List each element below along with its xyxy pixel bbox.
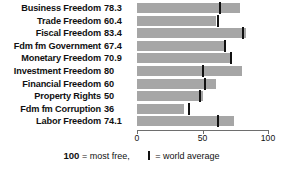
axis-tick-label: 100	[261, 133, 275, 143]
world-average-marker	[202, 65, 204, 77]
world-average-marker-icon	[148, 151, 150, 160]
row-label: Labor Freedom	[0, 115, 101, 127]
row-value: 36	[104, 103, 130, 115]
bar-track	[137, 41, 283, 51]
row-value: 83.4	[104, 27, 130, 39]
row-label: Trade Freedom	[0, 15, 101, 27]
row-value: 60	[104, 78, 130, 90]
bar	[137, 16, 216, 26]
row-label: Fiscal Freedom	[0, 27, 101, 39]
bar-track	[137, 66, 283, 76]
bar	[137, 3, 240, 13]
world-average-marker	[230, 52, 232, 64]
bar	[137, 116, 234, 126]
axis-tick-label: 50	[198, 133, 208, 143]
world-average-marker	[217, 15, 219, 27]
row-value: 80	[104, 65, 130, 77]
legend-world-average-text: = world average	[155, 151, 219, 161]
row-label: Fdm fm Government	[0, 40, 101, 52]
chart-row: Labor Freedom74.1	[0, 116, 283, 129]
bar-track	[137, 28, 283, 38]
world-average-marker	[224, 40, 226, 52]
row-value: 67.4	[104, 40, 130, 52]
freedom-index-bar-chart: Business Freedom78.3Trade Freedom60.4Fis…	[0, 0, 283, 172]
bar-track	[137, 116, 283, 126]
world-average-marker	[199, 90, 201, 102]
row-label: Financial Freedom	[0, 78, 101, 90]
axis-tick-label: 0	[135, 133, 140, 143]
world-average-marker	[242, 27, 244, 39]
bar-track	[137, 3, 283, 13]
bar-track	[137, 104, 283, 114]
bar	[137, 53, 230, 63]
bar	[137, 41, 225, 51]
row-label: Business Freedom	[0, 2, 101, 14]
bar-track	[137, 91, 283, 101]
bar	[137, 28, 246, 38]
chart-rows: Business Freedom78.3Trade Freedom60.4Fis…	[0, 3, 283, 129]
row-label: Property Rights	[0, 90, 101, 102]
bar-track	[137, 16, 283, 26]
row-value: 78.3	[104, 2, 130, 14]
world-average-marker	[188, 103, 190, 115]
bar-track	[137, 53, 283, 63]
row-label: Fdm fm Corruption	[0, 103, 101, 115]
row-value: 74.1	[104, 115, 130, 127]
row-value: 60.4	[104, 15, 130, 27]
row-value: 70.9	[104, 52, 130, 64]
world-average-marker	[217, 115, 219, 127]
bar	[137, 104, 184, 114]
row-value: 50	[104, 90, 130, 102]
chart-legend: 100 = most free, = world average	[0, 150, 283, 161]
bar	[137, 91, 203, 101]
bar	[137, 66, 242, 76]
world-average-marker	[204, 78, 206, 90]
row-label: Monetary Freedom	[0, 52, 101, 64]
legend-most-free-value: 100	[63, 150, 79, 161]
world-average-marker	[219, 2, 221, 14]
row-label: Investment Freedom	[0, 65, 101, 77]
bar-track	[137, 79, 283, 89]
legend-most-free-text: = most free,	[82, 151, 130, 161]
